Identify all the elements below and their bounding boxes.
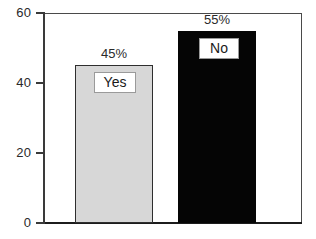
bar-no[interactable]: [178, 31, 256, 223]
y-tick-label-60: 60: [5, 6, 31, 19]
y-tick-60: [36, 12, 45, 14]
bar-chart: 60 40 20 0 45% Yes 55% No: [0, 0, 316, 239]
bar-no-value-label: 55%: [178, 13, 256, 27]
y-tick-40: [36, 82, 45, 84]
y-tick-20: [36, 152, 45, 154]
bar-yes-value-label: 45%: [75, 47, 153, 61]
bar-yes-category-label: Yes: [94, 72, 136, 93]
y-axis-line: [43, 13, 45, 224]
bar-no-category-label: No: [199, 38, 239, 59]
y-tick-label-40: 40: [5, 76, 31, 89]
y-tick-label-0: 0: [5, 216, 31, 229]
y-tick-label-20: 20: [5, 146, 31, 159]
y-tick-0: [36, 222, 45, 224]
